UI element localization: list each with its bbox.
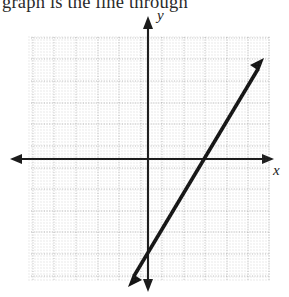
- y-axis-label: y: [157, 8, 164, 23]
- graph-svg: [0, 0, 289, 297]
- y-axis-arrow-down: [143, 279, 153, 292]
- coordinate-plane-figure: y x: [0, 0, 289, 297]
- x-axis-arrow-left: [10, 154, 22, 164]
- plotted-line: [134, 69, 258, 276]
- plotted-line-arrow-upper: [250, 58, 264, 71]
- axes: [10, 16, 274, 292]
- x-axis-label: x: [273, 163, 280, 178]
- y-axis-arrow-up: [143, 16, 153, 29]
